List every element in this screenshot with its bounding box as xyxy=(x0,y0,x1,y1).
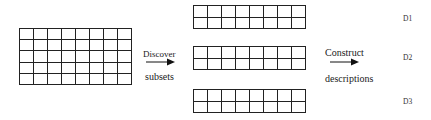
grid-cell xyxy=(118,40,132,51)
grid-cell xyxy=(250,102,264,114)
grid-cell xyxy=(194,18,208,30)
grid-cell xyxy=(104,40,118,51)
grid-cell xyxy=(34,74,48,85)
grid-cell xyxy=(236,18,250,30)
description-d3: D3 xyxy=(403,97,412,106)
subsets-label: subsets xyxy=(145,71,174,82)
grid-cell xyxy=(194,90,208,102)
grid-cell xyxy=(20,63,34,74)
grid-cell xyxy=(278,102,292,114)
grid-cell xyxy=(62,74,76,85)
grid-cell xyxy=(250,47,264,59)
grid-cell xyxy=(292,102,306,114)
subset-grid-1 xyxy=(193,5,306,29)
grid-cell xyxy=(48,40,62,51)
grid-cell xyxy=(104,29,118,40)
grid-cell xyxy=(292,6,306,18)
grid-cell xyxy=(222,59,236,71)
grid-cell xyxy=(222,18,236,30)
grid-cell xyxy=(278,47,292,59)
grid-cell xyxy=(34,63,48,74)
grid-cell xyxy=(90,29,104,40)
grid-cell xyxy=(90,40,104,51)
grid-cell xyxy=(194,47,208,59)
grid-cell xyxy=(264,59,278,71)
grid-cell xyxy=(236,90,250,102)
grid-cell xyxy=(118,29,132,40)
grid-cell xyxy=(264,6,278,18)
grid-cell xyxy=(194,59,208,71)
grid-cell xyxy=(90,74,104,85)
grid-cell xyxy=(104,63,118,74)
grid-cell xyxy=(76,63,90,74)
grid-cell xyxy=(236,102,250,114)
subset-grid-2 xyxy=(193,46,306,70)
grid-cell xyxy=(48,51,62,62)
grid-cell xyxy=(250,18,264,30)
grid-cell xyxy=(48,29,62,40)
grid-cell xyxy=(278,6,292,18)
grid-cell xyxy=(90,51,104,62)
grid-cell xyxy=(118,63,132,74)
grid-cell xyxy=(278,18,292,30)
grid-cell xyxy=(62,40,76,51)
grid-cell xyxy=(118,74,132,85)
description-d2: D2 xyxy=(403,53,412,62)
grid-cell xyxy=(292,47,306,59)
grid-cell xyxy=(194,6,208,18)
grid-cell xyxy=(34,40,48,51)
grid-cell xyxy=(118,51,132,62)
grid-cell xyxy=(208,47,222,59)
grid-cell xyxy=(208,102,222,114)
grid-cell xyxy=(236,6,250,18)
grid-cell xyxy=(222,6,236,18)
construct-label: Construct xyxy=(325,47,364,58)
grid-cell xyxy=(208,90,222,102)
grid-cell xyxy=(222,90,236,102)
grid-cell xyxy=(34,51,48,62)
grid-cell xyxy=(48,74,62,85)
grid-cell xyxy=(62,29,76,40)
grid-cell xyxy=(236,59,250,71)
grid-cell xyxy=(20,40,34,51)
grid-cell xyxy=(264,102,278,114)
grid-cell xyxy=(76,29,90,40)
grid-cell xyxy=(208,59,222,71)
grid-cell xyxy=(250,90,264,102)
grid-cell xyxy=(20,74,34,85)
grid-cell xyxy=(90,63,104,74)
grid-cell xyxy=(34,29,48,40)
grid-cell xyxy=(194,102,208,114)
grid-cell xyxy=(76,40,90,51)
grid-cell xyxy=(292,59,306,71)
source-data-grid xyxy=(19,28,132,85)
grid-cell xyxy=(264,90,278,102)
grid-cell xyxy=(278,59,292,71)
descriptions-label: descriptions xyxy=(325,73,373,84)
grid-cell xyxy=(208,18,222,30)
discover-arrow-icon xyxy=(146,58,176,66)
grid-cell xyxy=(292,18,306,30)
grid-cell xyxy=(222,47,236,59)
grid-cell xyxy=(264,47,278,59)
grid-cell xyxy=(76,74,90,85)
grid-cell xyxy=(222,102,236,114)
grid-cell xyxy=(292,90,306,102)
grid-cell xyxy=(250,59,264,71)
grid-cell xyxy=(236,47,250,59)
grid-cell xyxy=(76,51,90,62)
grid-cell xyxy=(20,29,34,40)
grid-cell xyxy=(104,74,118,85)
grid-cell xyxy=(62,63,76,74)
construct-arrow-icon xyxy=(330,58,360,66)
grid-cell xyxy=(104,51,118,62)
grid-cell xyxy=(20,51,34,62)
subset-grid-3 xyxy=(193,89,306,113)
grid-cell xyxy=(208,6,222,18)
grid-cell xyxy=(264,18,278,30)
description-d1: D1 xyxy=(403,14,412,23)
grid-cell xyxy=(62,51,76,62)
grid-cell xyxy=(278,90,292,102)
grid-cell xyxy=(48,63,62,74)
grid-cell xyxy=(250,6,264,18)
